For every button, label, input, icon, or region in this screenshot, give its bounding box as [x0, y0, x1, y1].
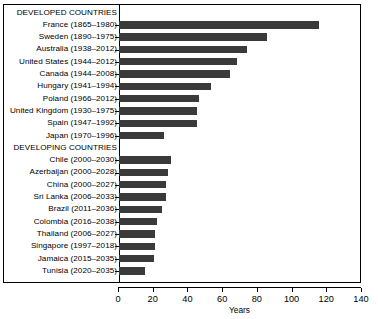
bar	[119, 46, 247, 53]
category-label: China (2000–2027)	[47, 179, 117, 191]
category-tick	[115, 25, 119, 26]
bar	[119, 120, 197, 127]
category-label: Japan (1970–1996)	[46, 130, 117, 142]
value-axis-line	[118, 287, 361, 288]
bar	[119, 132, 164, 139]
value-axis-tick-label: 0	[115, 294, 120, 304]
group-header-label: DEVELOPED COUNTRIES	[17, 7, 117, 19]
bar-row: Canada (1944–2008)	[4, 68, 360, 80]
value-axis-tick	[326, 288, 327, 292]
bar	[119, 181, 166, 188]
category-label: Chile (2000–2030)	[50, 154, 117, 166]
value-axis-tick-label: 80	[252, 294, 262, 304]
bar-row: Hungary (1941–1994)	[4, 80, 360, 92]
bar	[119, 21, 319, 28]
category-label: Poland (1966–2012)	[43, 93, 117, 105]
category-tick	[115, 62, 119, 63]
bar-row: China (2000–2027)	[4, 179, 360, 191]
bar-row: Jamaica (2015–2035)	[4, 253, 360, 265]
category-label: Canada (1944–2008)	[40, 68, 117, 80]
bar-row: Singapore (1997–2018)	[4, 240, 360, 252]
value-axis-tick	[257, 288, 258, 292]
category-tick	[115, 37, 119, 38]
value-axis-tick-label: 40	[182, 294, 192, 304]
category-label: United States (1944–2012)	[19, 56, 117, 68]
bar	[119, 156, 171, 163]
bar-row: Spain (1947–1992)	[4, 117, 360, 129]
value-axis-tick	[153, 288, 154, 292]
bar	[119, 243, 155, 250]
bar	[119, 218, 157, 225]
value-axis-tick	[222, 288, 223, 292]
bar-row: Azerbaijan (2000–2028)	[4, 166, 360, 178]
value-axis-tick-label: 140	[353, 294, 368, 304]
category-tick	[115, 99, 119, 100]
category-tick	[115, 259, 119, 260]
bar-row: United States (1944–2012)	[4, 56, 360, 68]
chart-rows-area: DEVELOPED COUNTRIESFrance (1865–1980)Swe…	[4, 5, 360, 282]
plot-frame: DEVELOPED COUNTRIESFrance (1865–1980)Swe…	[3, 4, 361, 283]
value-axis-tick	[292, 288, 293, 292]
category-tick	[115, 185, 119, 186]
value-axis-tick	[361, 288, 362, 292]
bar-row: Poland (1966–2012)	[4, 93, 360, 105]
category-tick	[115, 209, 119, 210]
bar	[119, 58, 237, 65]
bar-row: United Kingdom (1930–1975)	[4, 105, 360, 117]
bar	[119, 107, 197, 114]
group-header-label: DEVELOPING COUNTRIES	[13, 142, 117, 154]
bar-row: Tunisia (2020–2035)	[4, 265, 360, 277]
category-label: United Kingdom (1930–1975)	[10, 105, 117, 117]
value-axis-tick	[118, 288, 119, 292]
category-tick	[115, 74, 119, 75]
bar	[119, 95, 199, 102]
category-label: Colombia (2016–2038)	[34, 216, 117, 228]
bar-row: Colombia (2016–2038)	[4, 216, 360, 228]
category-label: Tunisia (2020–2035)	[42, 265, 117, 277]
bar	[119, 83, 211, 90]
bar-row: Sri Lanka (2006–2033)	[4, 191, 360, 203]
bar-row: Sweden (1890–1975)	[4, 31, 360, 43]
category-label: Thailand (2006–2027)	[37, 228, 117, 240]
bar	[119, 230, 155, 237]
value-axis-tick	[187, 288, 188, 292]
bar	[119, 267, 145, 274]
bar	[119, 255, 154, 262]
category-tick	[115, 173, 119, 174]
category-tick	[115, 50, 119, 51]
group-header-row: DEVELOPING COUNTRIES	[4, 142, 360, 154]
category-label: Jamaica (2015–2035)	[38, 253, 117, 265]
bar	[119, 193, 166, 200]
group-header-row: DEVELOPED COUNTRIES	[4, 7, 360, 19]
category-tick	[115, 271, 119, 272]
bar-chart-figure: DEVELOPED COUNTRIESFrance (1865–1980)Swe…	[0, 0, 378, 319]
bar-row: Chile (2000–2030)	[4, 154, 360, 166]
x-axis-title: Years	[118, 305, 361, 315]
value-axis-tick-label: 120	[319, 294, 334, 304]
category-label: Spain (1947–1992)	[47, 117, 117, 129]
value-axis-tick-label: 100	[284, 294, 299, 304]
bar	[119, 206, 162, 213]
category-label: Sri Lanka (2006–2033)	[34, 191, 117, 203]
category-tick	[115, 246, 119, 247]
value-axis-tick-label: 60	[217, 294, 227, 304]
bar-row: Thailand (2006–2027)	[4, 228, 360, 240]
category-label: Singapore (1997–2018)	[31, 240, 117, 252]
bar	[119, 33, 267, 40]
bar-row: Australia (1938–2012)	[4, 43, 360, 55]
category-tick	[115, 136, 119, 137]
bar	[119, 169, 168, 176]
category-label: Hungary (1941–1994)	[37, 80, 117, 92]
bar-row: Brazil (2011–2036)	[4, 203, 360, 215]
category-tick	[115, 222, 119, 223]
bar-row: Japan (1970–1996)	[4, 130, 360, 142]
value-axis-tick-label: 20	[148, 294, 158, 304]
category-label: Brazil (2011–2036)	[48, 203, 117, 215]
bar	[119, 70, 230, 77]
category-label: Azerbaijan (2000–2028)	[30, 166, 118, 178]
category-tick	[115, 111, 119, 112]
category-label: Sweden (1890–1975)	[39, 31, 117, 43]
bar-row: France (1865–1980)	[4, 19, 360, 31]
category-label: France (1865–1980)	[43, 19, 117, 31]
category-label: Australia (1938–2012)	[36, 43, 117, 55]
